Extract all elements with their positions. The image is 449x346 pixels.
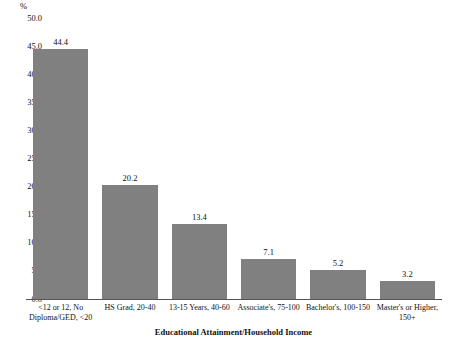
bar-value-label: 20.2 [123, 173, 138, 183]
bar: 7.1 [241, 247, 296, 299]
bar-rect [241, 259, 296, 299]
bar-value-label: 7.1 [263, 247, 274, 257]
bar-value-label: 5.2 [333, 258, 344, 268]
x-axis-title: Educational Attainment/Household Income [0, 327, 449, 337]
x-axis-tick-label: 13-15 Years, 40-60 [165, 303, 234, 313]
bar-rect [310, 270, 365, 299]
bar-rect [380, 281, 435, 299]
bar: 5.2 [310, 258, 365, 299]
x-axis-tick-label: HS Grad, 20-40 [95, 303, 164, 313]
bar: 20.2 [102, 173, 157, 299]
x-axis-tick-label: <12 or 12, No Diploma/GED, <20 [26, 303, 95, 322]
bar-value-label: 3.2 [402, 269, 413, 279]
bar-value-label: 44.4 [53, 37, 68, 47]
bar-rect [33, 49, 88, 299]
bar-rect [102, 185, 157, 299]
bar: 3.2 [380, 269, 435, 299]
x-axis-tick-label: Master's or Higher, 150+ [373, 303, 442, 322]
bar-chart: % 50.045.040.035.030.025.020.015.010.05.… [0, 0, 449, 346]
plot-area: 44.420.213.47.15.23.2 [26, 18, 442, 299]
bar-value-label: 13.4 [192, 212, 207, 222]
bar-rect [172, 224, 227, 299]
x-axis-tick-label: Associate's, 75-100 [234, 303, 303, 313]
x-axis-tick-label: Bachelor's, 100-150 [303, 303, 372, 313]
y-axis-title: % [20, 1, 27, 11]
bar: 44.4 [33, 37, 88, 299]
x-axis-line [26, 299, 442, 300]
bar: 13.4 [172, 212, 227, 299]
